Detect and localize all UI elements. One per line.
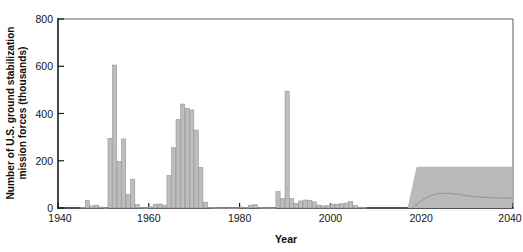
bar: [339, 204, 343, 208]
x-tick-label-1980: 1980: [228, 212, 252, 224]
bar: [162, 205, 166, 208]
projection-band: [408, 167, 512, 208]
bar: [353, 206, 357, 208]
bar: [285, 91, 289, 208]
y-axis-title-line2: mission forces (thousands): [17, 46, 28, 179]
x-tick-label-1960: 1960: [137, 212, 161, 224]
y-tick-label-400: 400: [35, 108, 53, 120]
bar: [85, 200, 89, 208]
bar: [112, 65, 116, 208]
bar: [122, 139, 126, 208]
x-tick-label-2000: 2000: [319, 212, 343, 224]
bar: [330, 204, 334, 208]
bar: [262, 208, 266, 209]
bar: [81, 207, 85, 208]
bar: [167, 176, 171, 208]
bar: [144, 208, 148, 209]
bar: [190, 110, 194, 208]
bar: [303, 200, 307, 208]
bar: [344, 203, 348, 208]
y-tick-label-800: 800: [35, 13, 53, 25]
bar: [140, 207, 144, 208]
bar: [103, 208, 107, 209]
bar: [203, 202, 207, 208]
bar: [249, 205, 253, 208]
chart-figure: 0 200 400 600 800 1940 1960 1980 2000 20…: [0, 0, 523, 252]
bar: [221, 208, 225, 209]
bar: [126, 194, 130, 208]
bar: [321, 206, 325, 208]
bar: [181, 104, 185, 208]
y-axis: 0 200 400 600 800: [35, 13, 64, 214]
y-tick-label-600: 600: [35, 60, 53, 72]
x-tick-label-1940: 1940: [48, 212, 72, 224]
bar: [94, 205, 98, 208]
bar: [108, 138, 112, 208]
bar: [217, 208, 221, 209]
y-tick-label-200: 200: [35, 155, 53, 167]
y-axis-ticks: [58, 19, 64, 208]
bar: [149, 207, 153, 208]
bar: [172, 148, 176, 208]
bar: [194, 130, 198, 208]
bar: [117, 161, 121, 208]
bar: [271, 208, 275, 209]
bar: [280, 199, 284, 208]
bar: [335, 204, 339, 208]
x-tick-label-2020: 2020: [410, 212, 434, 224]
bar: [276, 191, 280, 208]
bar: [294, 203, 298, 208]
bar: [253, 205, 257, 208]
bar: [362, 207, 366, 208]
bar: [267, 208, 271, 209]
bar: [258, 207, 262, 208]
bar: [131, 179, 135, 208]
bar: [240, 207, 244, 208]
y-axis-title-line1: Number of U.S. ground stabilization: [5, 26, 16, 199]
bar: [308, 200, 312, 208]
bar: [244, 207, 248, 208]
bar: [153, 204, 157, 208]
chart-plot-area: 0 200 400 600 800 1940 1960 1980 2000 20…: [0, 0, 523, 252]
x-tick-label-2040: 2040: [498, 212, 522, 224]
bar: [176, 119, 180, 208]
bar: [358, 207, 362, 208]
bar-series: [81, 65, 367, 208]
bar: [212, 208, 216, 209]
x-axis-title: Year: [275, 233, 297, 245]
bar: [290, 199, 294, 208]
bar: [90, 206, 94, 208]
bar: [185, 108, 189, 208]
cropped-caption-text: [300, 243, 523, 252]
bar: [349, 201, 353, 208]
bar: [231, 208, 235, 209]
bar: [208, 207, 212, 208]
bar: [135, 205, 139, 208]
bar: [99, 207, 103, 208]
bar: [235, 208, 239, 209]
bar: [317, 205, 321, 208]
bar: [199, 167, 203, 208]
bar: [226, 208, 230, 209]
bar: [326, 206, 330, 208]
bar: [299, 201, 303, 208]
bar: [158, 204, 162, 208]
bar: [312, 202, 316, 208]
